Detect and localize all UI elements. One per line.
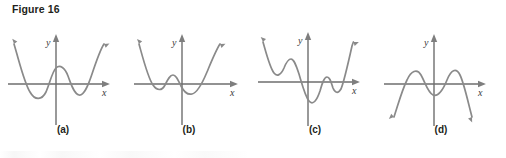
panel-caption-d: (d) [378,124,504,135]
graph-panel-a: y x (a) [0,20,126,158]
figure-title: Figure 16 [12,3,60,15]
curve-arrow-right-a [103,41,110,48]
y-axis-label: y [171,37,177,48]
graph-panel-row: y x (a) [0,20,506,158]
y-axis-label: y [297,35,303,46]
graph-panel-c: y x (c) [252,20,378,158]
graph-plot-c: y x [252,20,378,130]
panel-caption-a: (a) [0,124,126,135]
panel-caption-c: (c) [252,124,378,135]
polynomial-curve-d [394,70,472,117]
x-axis-label: x [477,87,483,98]
x-axis-label: x [351,85,357,96]
x-axis-label: x [229,87,235,98]
graph-panel-b: y x (b) [126,20,252,158]
polynomial-curve-b [139,44,220,94]
y-axis-label: y [45,37,51,48]
polynomial-curve-a [14,44,104,98]
graph-plot-a: y x [0,20,126,130]
y-axis-label: y [423,37,429,48]
x-axis-label: x [101,87,107,98]
figure-container: Figure 16 [0,0,506,158]
graph-plot-d: y x [378,20,504,130]
graph-panel-d: y x (d) [378,20,504,158]
graph-plot-b: y x [126,20,252,130]
panel-caption-b: (b) [126,124,252,135]
